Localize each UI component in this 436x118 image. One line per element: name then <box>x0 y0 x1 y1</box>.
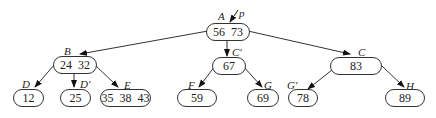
node-f: 59 <box>177 89 217 107</box>
pointer-label-p: p <box>239 8 245 19</box>
node-h: 89 <box>385 89 425 107</box>
node-gprime: 78 <box>288 89 318 107</box>
node-g: 69 <box>247 89 279 107</box>
node-dprime: 25 <box>60 89 91 107</box>
node-d: 12 <box>13 89 44 107</box>
b-tree-diagram: A p B C′ C D D′ E F G G′ H 56 73 24 32 6… <box>0 0 436 118</box>
node-a: 56 73 <box>206 23 250 41</box>
node-c: 83 <box>330 57 382 75</box>
node-cprime: 67 <box>212 57 246 75</box>
node-e: 35 38 43 <box>100 89 151 107</box>
edge-b-e <box>94 64 118 87</box>
edge-cprime-g <box>243 66 262 87</box>
edge-a-b <box>80 31 208 54</box>
node-b: 24 32 <box>53 56 97 74</box>
edge-b-d <box>35 64 55 87</box>
edge-a-c <box>248 31 350 54</box>
node-label-a: A <box>218 11 225 22</box>
pointer-p-arrow <box>230 10 238 22</box>
edge-c-h <box>382 66 404 87</box>
